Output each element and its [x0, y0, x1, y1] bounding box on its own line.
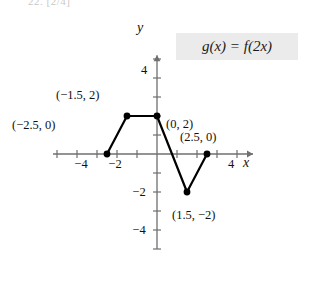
- point-label-2_5-0: (2.5, 0): [180, 130, 216, 145]
- x-tick-label-neg4: −4: [70, 157, 92, 172]
- data-point-marker: [184, 189, 191, 196]
- point-label-1_5-neg2: (1.5, −2): [172, 208, 216, 223]
- x-axis-label: x: [243, 155, 249, 171]
- legend-equation: g(x) = f(2x): [202, 38, 272, 55]
- point-label-neg2_5-0: (−2.5, 0): [12, 118, 56, 133]
- y-axis-label: y: [137, 20, 143, 36]
- point-label-neg1_5-2: (−1.5, 2): [56, 88, 100, 103]
- y-tick-label-pos4: 4: [138, 63, 150, 78]
- figure-container: 22. [2/4] y x −4 −2 4 4 −2 −4 g(x) = f(2…: [0, 0, 312, 296]
- y-axis-arrowhead: [154, 55, 161, 61]
- y-tick-label-neg2: −2: [128, 185, 150, 200]
- data-point-marker: [124, 113, 131, 120]
- y-tick-label-neg4: −4: [128, 223, 150, 238]
- data-point-marker: [154, 113, 161, 120]
- data-point-marker: [204, 151, 211, 158]
- x-tick-label-neg2: −2: [104, 157, 126, 172]
- x-tick-label-pos4: 4: [224, 157, 238, 172]
- legend-box: g(x) = f(2x): [176, 33, 298, 60]
